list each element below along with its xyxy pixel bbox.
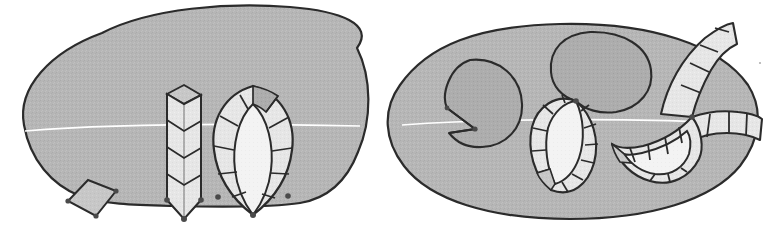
lens-cell-divider [270,173,289,174]
lens-cell-divider [585,144,598,145]
vertex-dot [113,188,118,193]
vertex-dot [285,193,291,199]
vertex-dot [445,106,450,111]
vertex-dot [93,213,98,218]
panel-left [23,5,368,222]
vertex-dot [65,198,70,203]
vertex-dot [472,126,477,131]
segmented-column [164,85,204,222]
diagram-canvas [0,0,774,241]
panel-right [388,23,762,219]
vertex-dot [181,216,187,222]
vertex-dot [198,197,204,203]
vertex-dot [573,98,579,104]
vertex-dot [689,114,695,120]
vertex-dot [250,212,256,218]
speck-artifact [759,62,761,64]
notched-circle [441,60,522,147]
vertex-dot [164,197,170,203]
figure-root [0,0,774,241]
lens-cell-divider [532,150,546,151]
vertex-dot [215,194,221,200]
band-cell-divider [746,113,747,136]
